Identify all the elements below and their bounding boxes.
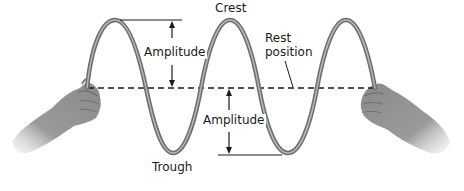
crest-label: Crest — [215, 2, 246, 15]
rope-wave — [87, 20, 375, 153]
trough-label: Trough — [152, 161, 192, 174]
rest-position-label-line2: position — [265, 46, 313, 59]
wave-diagram: Crest Amplitude Rest position Amplitude … — [0, 0, 464, 191]
amplitude-bottom-label: Amplitude — [202, 114, 266, 127]
rest-position-leader — [285, 61, 293, 87]
right-hand-icon — [361, 83, 450, 153]
rest-position-label-line1: Rest — [265, 32, 291, 45]
amplitude-top-label: Amplitude — [143, 46, 207, 59]
left-hand-icon — [12, 79, 101, 153]
wave-diagram-canvas — [0, 0, 464, 191]
